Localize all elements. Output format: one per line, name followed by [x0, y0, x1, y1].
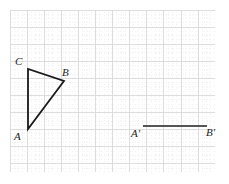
vertex-label-b: B: [62, 67, 69, 78]
vertex-label-b-prime: B': [206, 127, 215, 138]
vertex-label-a-prime: A': [131, 128, 140, 139]
grid-layer: [10, 10, 215, 172]
vertex-label-c: C: [15, 56, 22, 67]
geometry-figure: C B A A' B': [0, 0, 229, 184]
geometry-canvas: [0, 0, 229, 184]
vertex-label-a: A: [14, 131, 21, 142]
